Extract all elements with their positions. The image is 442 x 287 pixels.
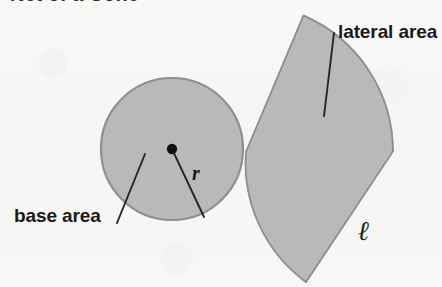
radius-label: r [192, 163, 200, 183]
lateral-area-label: lateral area [338, 22, 437, 41]
cone-net-figure: Net of a Cone lateral area base area r ℓ [0, 0, 442, 287]
base-area-label: base area [14, 206, 101, 225]
slant-height-label: ℓ [358, 218, 370, 245]
lateral-sector-outline [246, 16, 393, 282]
figure-canvas [0, 0, 442, 287]
center-dot [167, 144, 177, 154]
